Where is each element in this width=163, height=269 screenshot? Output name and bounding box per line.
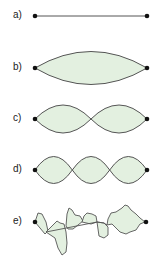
node-dot [145,14,150,19]
panel-b-mode1 [33,52,150,85]
panel-d-mode3 [33,157,150,184]
standing-waves-diagram [0,0,163,269]
panel-a-string [33,14,150,19]
node-dot [33,14,38,19]
panel-c-mode2 [33,105,150,133]
panel-e-irregular [33,205,149,255]
